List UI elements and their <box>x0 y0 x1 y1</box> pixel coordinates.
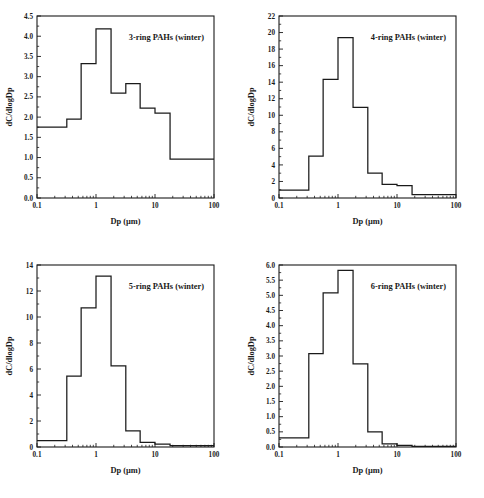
y-tick-label: 20 <box>268 29 276 37</box>
x-tick-label: 100 <box>451 202 462 210</box>
x-tick-label: 100 <box>451 451 462 459</box>
y-tick-label: 12 <box>268 95 276 103</box>
y-axis-title: dC/dlogDp <box>247 87 256 126</box>
y-tick-label: 5.5 <box>266 277 275 285</box>
x-axis-title: Dp (µm) <box>352 217 382 226</box>
x-tick-label: 100 <box>209 451 220 459</box>
y-tick-label: 4.0 <box>24 33 33 41</box>
chart-panel-5ring: 0.111010002468101214Dp (µm)dC/dlogDp5-ri… <box>0 249 242 498</box>
distribution-step-line <box>37 276 214 446</box>
panel-3ring-plot: 0.11101000.00.51.01.52.02.53.03.54.04.5D… <box>0 0 242 249</box>
distribution-step-line <box>37 29 214 159</box>
y-tick-label: 6 <box>271 145 275 153</box>
y-tick-label: 5.0 <box>266 292 275 300</box>
y-tick-label: 1.0 <box>266 413 275 421</box>
x-tick-label: 1 <box>94 451 98 459</box>
y-tick-label: 4.5 <box>266 307 275 315</box>
y-tick-label: 18 <box>268 46 276 54</box>
y-tick-label: 0.0 <box>266 444 275 452</box>
x-axis-title: Dp (µm) <box>110 466 140 475</box>
distribution-step-line <box>279 38 456 195</box>
y-tick-label: 2 <box>29 418 33 426</box>
y-axis-title: dC/dlogDp <box>5 336 14 375</box>
x-tick-label: 1 <box>336 202 340 210</box>
y-tick-label: 3.5 <box>24 53 33 61</box>
x-tick-label: 0.1 <box>33 202 42 210</box>
y-tick-label: 6.0 <box>266 262 275 270</box>
y-tick-label: 16 <box>268 62 276 70</box>
y-tick-label: 4.0 <box>266 322 275 330</box>
y-axis-title: dC/dlogDp <box>5 87 14 126</box>
x-tick-label: 100 <box>209 202 220 210</box>
x-tick-label: 10 <box>151 451 159 459</box>
y-tick-label: 12 <box>26 288 34 296</box>
chart-panel-4ring: 0.11101000246810121416182022Dp (µm)dC/dl… <box>242 0 484 249</box>
y-tick-label: 2.5 <box>266 368 275 376</box>
chart-panel-3ring: 0.11101000.00.51.01.52.02.53.03.54.04.5D… <box>0 0 242 249</box>
panel-label: 4-ring PAHs (winter) <box>371 33 446 42</box>
y-axis-title: dC/dlogDp <box>247 336 256 375</box>
x-tick-label: 10 <box>393 202 401 210</box>
y-tick-label: 6 <box>29 366 33 374</box>
panel-5ring-plot: 0.111010002468101214Dp (µm)dC/dlogDp5-ri… <box>0 249 242 498</box>
x-tick-label: 10 <box>151 202 159 210</box>
distribution-step-line <box>279 270 456 446</box>
y-tick-label: 8 <box>29 340 33 348</box>
chart-panel-6ring: 0.11101000.00.51.01.52.02.53.03.54.04.55… <box>242 249 484 498</box>
y-tick-label: 8 <box>271 128 275 136</box>
panel-6ring-plot: 0.11101000.00.51.01.52.02.53.03.54.04.55… <box>242 249 484 498</box>
y-tick-label: 4 <box>271 162 275 170</box>
y-tick-label: 0.5 <box>266 428 275 436</box>
y-tick-label: 0.0 <box>24 195 33 203</box>
y-tick-label: 0.5 <box>24 174 33 182</box>
y-tick-label: 10 <box>26 314 34 322</box>
y-tick-label: 3.0 <box>266 353 275 361</box>
y-tick-label: 1.5 <box>266 398 275 406</box>
x-tick-label: 10 <box>393 451 401 459</box>
y-tick-label: 0 <box>271 195 275 203</box>
x-tick-label: 1 <box>94 202 98 210</box>
y-tick-label: 2.5 <box>24 93 33 101</box>
y-tick-label: 1.5 <box>24 134 33 142</box>
plot-frame <box>37 16 214 198</box>
y-tick-label: 2 <box>271 178 275 186</box>
y-tick-label: 2.0 <box>266 383 275 391</box>
panel-label: 5-ring PAHs (winter) <box>129 282 204 291</box>
x-tick-label: 0.1 <box>275 451 284 459</box>
x-axis-title: Dp (µm) <box>352 466 382 475</box>
y-tick-label: 3.0 <box>24 73 33 81</box>
y-tick-label: 4 <box>29 392 33 400</box>
panel-label: 6-ring PAHs (winter) <box>371 282 446 291</box>
y-tick-label: 14 <box>26 262 34 270</box>
y-tick-label: 1.0 <box>24 154 33 162</box>
y-tick-label: 14 <box>268 79 276 87</box>
x-tick-label: 0.1 <box>275 202 284 210</box>
y-tick-label: 0 <box>29 444 33 452</box>
y-tick-label: 3.5 <box>266 337 275 345</box>
x-axis-title: Dp (µm) <box>110 217 140 226</box>
y-tick-label: 22 <box>268 13 276 21</box>
y-tick-label: 10 <box>268 112 276 120</box>
y-tick-label: 4.5 <box>24 13 33 21</box>
x-tick-label: 0.1 <box>33 451 42 459</box>
panel-4ring-plot: 0.11101000246810121416182022Dp (µm)dC/dl… <box>242 0 484 249</box>
panel-label: 3-ring PAHs (winter) <box>129 33 204 42</box>
x-tick-label: 1 <box>336 451 340 459</box>
y-tick-label: 2.0 <box>24 114 33 122</box>
pah-size-distribution-figure: 0.11101000.00.51.01.52.02.53.03.54.04.5D… <box>0 0 484 498</box>
